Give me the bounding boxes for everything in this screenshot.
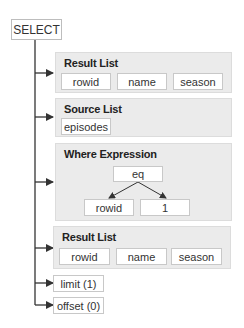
limit-node: limit (1) [53,275,104,292]
where-expression-panel: Where Expression eq rowid 1 [55,143,232,221]
offset-node: offset (0) [53,297,104,314]
select-label: SELECT [13,23,60,37]
result-item-season: season [173,73,223,90]
result-list-panel-2: Result List rowid name season [53,226,231,269]
source-list-title: Source List [64,103,122,115]
result-list-title: Result List [62,231,116,243]
source-item-episodes: episodes [61,118,111,135]
result-list-panel-1: Result List rowid name season [55,52,232,93]
operator-eq-node: eq [113,166,163,182]
source-list-panel: Source List episodes [55,98,232,137]
result-item-rowid: rowid [61,73,111,90]
result-item-name: name [117,73,167,90]
operand-rowid-node: rowid [84,199,134,216]
result-item-rowid: rowid [59,248,110,265]
result-item-season: season [171,248,222,265]
select-node: SELECT [11,19,62,40]
result-item-name: name [116,248,167,265]
result-list-title: Result List [64,57,118,69]
operand-value-node: 1 [140,199,190,216]
